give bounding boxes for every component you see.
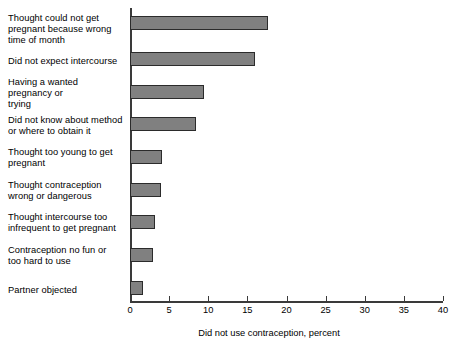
x-axis-tick xyxy=(208,296,209,301)
bar-partner-objected xyxy=(130,281,143,295)
x-axis-tick-label: 40 xyxy=(428,305,452,316)
x-axis-line xyxy=(130,301,443,303)
x-axis-tick-label: 30 xyxy=(350,305,380,316)
x-axis-tick-label: 5 xyxy=(154,305,184,316)
bar-having-a-wanted-pregnancy xyxy=(130,85,204,99)
bar-thought-contraception-wrong xyxy=(130,183,161,197)
x-axis-tick xyxy=(404,296,405,301)
x-axis-tick xyxy=(247,296,248,301)
x-axis-tick-label: 0 xyxy=(115,305,145,316)
x-axis-tick-label: 10 xyxy=(193,305,223,316)
bar-thought-could-not-get-pregnant xyxy=(130,16,268,30)
bar-thought-intercourse-infrequent xyxy=(130,215,155,229)
x-axis-tick-label: 25 xyxy=(311,305,341,316)
x-axis-tick-label: 20 xyxy=(272,305,302,316)
bar-thought-too-young xyxy=(130,150,162,164)
plot-area: 0 5 10 15 20 25 30 35 40 xyxy=(0,0,452,310)
x-axis-tick xyxy=(169,296,170,301)
x-axis-title-text: Did not use contraception, percent xyxy=(112,328,340,338)
x-axis-tick xyxy=(365,296,366,301)
bar-contraception-no-fun xyxy=(130,248,153,262)
x-axis-tick xyxy=(287,296,288,301)
bar-chart: Thought could not get pregnant because w… xyxy=(0,0,452,349)
bar-did-not-expect-intercourse xyxy=(130,52,255,66)
x-axis-tick-label: 15 xyxy=(232,305,262,316)
x-axis-tick xyxy=(443,296,444,301)
x-axis-title: Did not use contraception, percent xyxy=(0,328,452,338)
x-axis-tick xyxy=(130,296,131,301)
x-axis-tick xyxy=(326,296,327,301)
x-axis-tick-label: 35 xyxy=(389,305,419,316)
bar-did-not-know-about-method xyxy=(130,117,196,131)
